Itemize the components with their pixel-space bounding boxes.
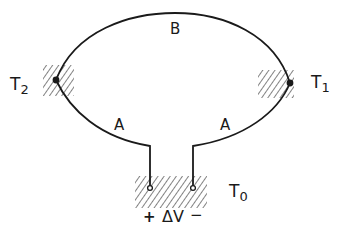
t2-label-sub: 2: [20, 82, 28, 97]
terminal-plus: [148, 186, 153, 191]
wire-a-left-label: A: [114, 116, 125, 134]
t0-label-sub: 0: [239, 189, 247, 204]
voltage-plus: +: [143, 208, 156, 226]
t2-label-main: T: [9, 74, 21, 94]
wire-b-label: B: [170, 20, 180, 38]
voltage-minus: −: [190, 206, 203, 224]
wire-a-right: [193, 83, 290, 186]
terminal-minus: [191, 186, 196, 191]
t2-label: T2: [9, 74, 29, 97]
wire-a-right-label: A: [220, 116, 231, 134]
t0-label: T0: [228, 181, 248, 204]
t0-label-main: T: [228, 181, 240, 201]
voltage-delta-v: ΔV: [162, 207, 184, 226]
t1-label-sub: 1: [321, 80, 329, 95]
t2-junction-dot: [53, 77, 60, 84]
t1-label: T1: [310, 72, 330, 95]
t1-junction-dot: [287, 80, 294, 87]
t1-label-main: T: [310, 72, 322, 92]
t0-reservoir-hatch: [135, 176, 207, 208]
thermocouple-diagram: B A A T2 T1 T0 + ΔV −: [0, 0, 341, 233]
